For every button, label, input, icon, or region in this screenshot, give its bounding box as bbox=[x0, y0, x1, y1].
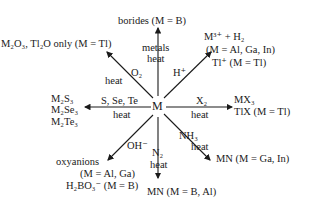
product-oxyanions: oxyanions bbox=[56, 156, 99, 167]
product-m2se3: M₂Se₃ bbox=[51, 104, 78, 115]
reagent-x2: X₂ bbox=[196, 95, 207, 106]
reagent-heat-top: heat bbox=[147, 53, 165, 64]
product-borides: borides (M = B) bbox=[118, 15, 186, 26]
product-m2s3: M₂S₃ bbox=[51, 93, 74, 104]
arrow-up-right bbox=[164, 52, 211, 98]
reagent-oh-minus: OH⁻ bbox=[127, 140, 148, 151]
product-mx3: MX₃ bbox=[234, 94, 255, 105]
reagent-heat-top-left: heat bbox=[105, 75, 123, 86]
reagent-o2: O₂ bbox=[131, 67, 142, 78]
reagent-chalcogens: S, Se, Te bbox=[101, 95, 138, 106]
product-m3plus-condition: (M = Al, Ga, In) bbox=[206, 44, 275, 55]
reagent-metals: metals bbox=[142, 42, 169, 53]
reagent-heat-left: heat bbox=[113, 109, 131, 120]
reagent-nh3: NH₃ bbox=[179, 130, 198, 141]
product-tlplus: Tl⁺ (M = Tl) bbox=[212, 57, 266, 68]
reagent-heat-right: heat bbox=[191, 109, 209, 120]
product-m3plus: M³⁺ + H₂ bbox=[204, 31, 244, 42]
product-tlx: TlX (M = Tl) bbox=[234, 106, 290, 117]
product-m2te3: M₂Te₃ bbox=[51, 116, 78, 127]
product-mn-ga-in: MN (M = Ga, In) bbox=[216, 153, 289, 164]
reagent-heat-bottom-right: heat bbox=[191, 141, 209, 152]
reagent-h-plus: H⁺ bbox=[173, 67, 186, 78]
center-metal: M bbox=[152, 101, 163, 112]
reagent-heat-bottom: heat bbox=[150, 159, 168, 170]
product-oxyanions-condition: (M = Al, Ga) bbox=[80, 168, 135, 179]
arrow-down-left bbox=[108, 115, 153, 160]
product-oxides: M₂O₃, Tl₂O only (M = Tl) bbox=[1, 38, 111, 49]
product-h2bo3: H₂BO₃⁻ (M = B) bbox=[66, 180, 138, 191]
product-mn-b-al: MN (M = B, Al) bbox=[147, 186, 216, 197]
reagent-n2: N₂ bbox=[152, 147, 163, 158]
